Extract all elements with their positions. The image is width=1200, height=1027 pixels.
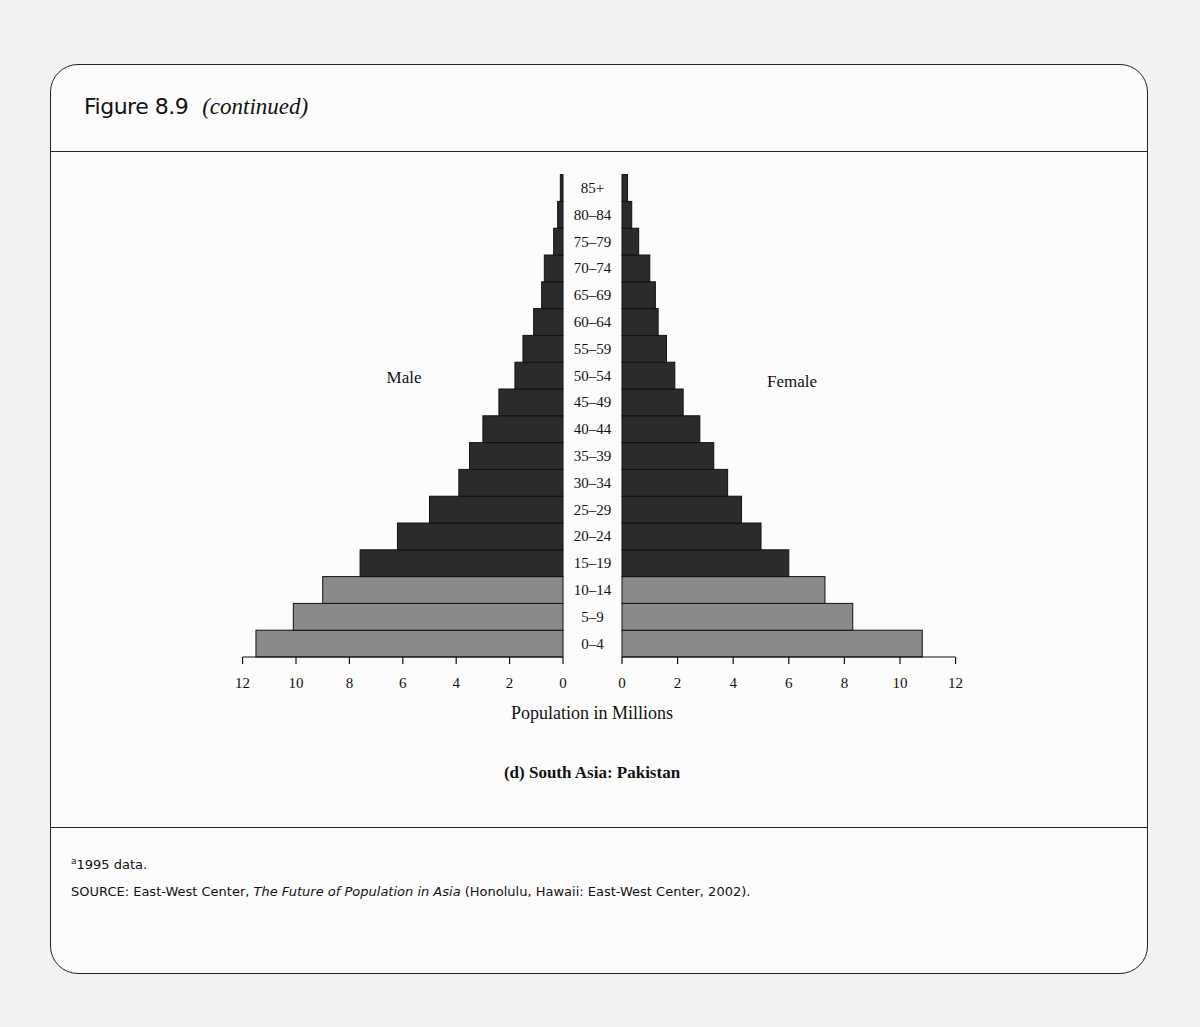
- female-bar: [622, 577, 825, 604]
- female-bar: [622, 443, 714, 470]
- female-tick-label: 4: [729, 675, 737, 691]
- age-group-label: 5–9: [581, 609, 604, 625]
- x-axis-label: Population in Millions: [511, 703, 673, 723]
- male-bar: [544, 255, 563, 282]
- female-bar: [622, 496, 742, 523]
- age-group-label: 60–64: [574, 314, 612, 330]
- age-group-label: 80–84: [574, 207, 612, 223]
- female-tick-label: 8: [841, 675, 849, 691]
- female-bar: [622, 309, 658, 336]
- female-bar: [622, 201, 632, 228]
- female-tick-label: 12: [948, 675, 963, 691]
- age-group-label: 65–69: [574, 287, 612, 303]
- female-bar: [622, 630, 922, 657]
- chart-subtitle: (d) South Asia: Pakistan: [504, 763, 681, 782]
- female-bar: [622, 469, 728, 496]
- male-bar: [523, 335, 563, 362]
- male-bar: [360, 550, 563, 577]
- female-bar: [622, 175, 628, 202]
- female-bar: [622, 335, 666, 362]
- male-tick-label: 12: [235, 675, 250, 691]
- age-group-label: 25–29: [574, 502, 612, 518]
- male-bar: [256, 630, 563, 657]
- male-bar: [558, 201, 563, 228]
- age-group-label: 45–49: [574, 394, 612, 410]
- female-label: Female: [767, 372, 817, 391]
- male-tick-label: 0: [559, 675, 567, 691]
- male-bar: [323, 577, 563, 604]
- female-tick-label: 0: [618, 675, 626, 691]
- female-bar: [622, 389, 683, 416]
- female-bar: [622, 255, 650, 282]
- age-group-label: 70–74: [574, 260, 612, 276]
- female-tick-label: 2: [674, 675, 682, 691]
- male-bar: [397, 523, 563, 550]
- age-group-label: 75–79: [574, 234, 612, 250]
- male-bar: [293, 603, 563, 630]
- male-bar: [483, 416, 563, 443]
- female-bar: [622, 362, 675, 389]
- age-group-label: 55–59: [574, 341, 612, 357]
- age-group-label: 0–4: [581, 636, 604, 652]
- female-tick-label: 10: [893, 675, 908, 691]
- age-group-label: 10–14: [574, 582, 612, 598]
- age-group-label: 20–24: [574, 528, 612, 544]
- age-group-label: 40–44: [574, 421, 612, 437]
- male-tick-label: 2: [506, 675, 514, 691]
- male-bar: [499, 389, 563, 416]
- male-bar: [430, 496, 564, 523]
- age-group-label: 50–54: [574, 368, 612, 384]
- male-bar: [560, 175, 563, 202]
- female-bar: [622, 416, 700, 443]
- male-bar: [542, 282, 563, 309]
- male-bar: [515, 362, 563, 389]
- age-group-label: 30–34: [574, 475, 612, 491]
- male-bar: [470, 443, 563, 470]
- female-bar: [622, 523, 761, 550]
- male-label: Male: [387, 368, 422, 387]
- female-bar: [622, 282, 655, 309]
- female-bar: [622, 550, 789, 577]
- male-tick-label: 8: [346, 675, 354, 691]
- male-bar: [534, 309, 563, 336]
- age-group-label: 15–19: [574, 555, 612, 571]
- male-tick-label: 10: [289, 675, 304, 691]
- male-tick-label: 4: [452, 675, 460, 691]
- age-group-label: 35–39: [574, 448, 612, 464]
- female-bar: [622, 228, 639, 255]
- age-group-label: 85+: [581, 180, 604, 196]
- male-tick-label: 6: [399, 675, 407, 691]
- female-tick-label: 6: [785, 675, 793, 691]
- male-bar: [554, 228, 563, 255]
- male-bar: [459, 469, 563, 496]
- population-pyramid-chart: 0–45–910–1415–1920–2425–2930–3435–3940–4…: [0, 0, 1200, 1027]
- female-bar: [622, 603, 853, 630]
